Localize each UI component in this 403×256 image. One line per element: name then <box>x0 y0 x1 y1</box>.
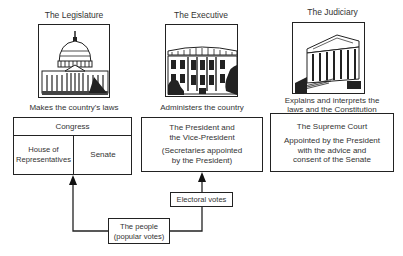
people-line2: (popular votes) <box>109 232 169 242</box>
electoral-votes-box: Electoral votes <box>170 192 233 207</box>
people-line1: The people <box>109 222 169 232</box>
people-box: The people (popular votes) <box>108 218 170 244</box>
vote-flow-arrows <box>0 0 403 256</box>
electoral-votes-label: Electoral votes <box>171 193 232 206</box>
